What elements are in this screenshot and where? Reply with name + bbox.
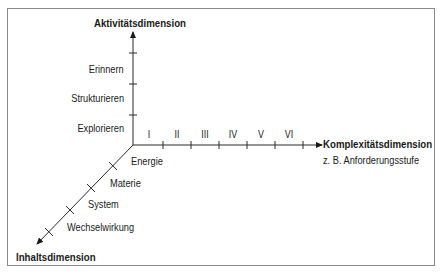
- complexity-axis-title: Komplexitätsdimension: [323, 138, 432, 150]
- activity-label-explorieren: Explorieren: [77, 122, 124, 134]
- level-1: I: [141, 128, 158, 140]
- content-label-wechselwirkung: Wechselwirkung: [67, 221, 134, 233]
- content-label-materie: Materie: [110, 177, 141, 189]
- level-5: V: [253, 128, 270, 140]
- activity-label-strukturieren: Strukturieren: [71, 92, 124, 104]
- level-6: VI: [281, 128, 298, 140]
- level-4: IV: [225, 128, 242, 140]
- activity-label-erinnern: Erinnern: [89, 63, 124, 75]
- content-label-energie: Energie: [131, 155, 163, 167]
- complexity-axis-subtitle: z. B. Anforderungsstufe: [323, 154, 419, 166]
- level-2: II: [169, 128, 186, 140]
- level-3: III: [197, 128, 214, 140]
- content-label-system: System: [88, 198, 119, 210]
- activity-axis-title: Aktivitätsdimension: [94, 17, 186, 29]
- content-axis-title: Inhaltsdimension: [16, 251, 96, 263]
